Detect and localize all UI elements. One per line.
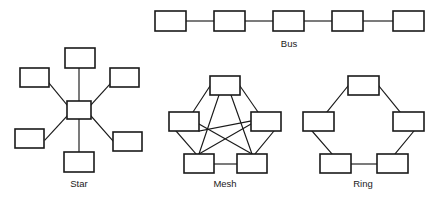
ring-node-right[interactable]: [393, 112, 424, 131]
ring-node-bottom-left[interactable]: [320, 154, 351, 173]
star-node-lower-left[interactable]: [15, 129, 44, 148]
star-link-4: [45, 116, 67, 140]
topology-canvas: BusStarMeshRing: [0, 0, 434, 200]
ring-node-top[interactable]: [348, 76, 379, 95]
topology-label-mesh: Mesh: [213, 178, 236, 189]
topology-label-star: Star: [70, 178, 87, 189]
network-topology-figure: BusStarMeshRing: [0, 0, 434, 200]
star-node-bottom[interactable]: [64, 152, 94, 172]
ring-link-4: [395, 131, 414, 154]
ring-link-3: [312, 131, 332, 154]
star-node-lower-right[interactable]: [113, 132, 142, 151]
bus-node-3[interactable]: [273, 11, 304, 31]
star-nodes: [15, 48, 142, 172]
mesh-node-bottom-left[interactable]: [184, 154, 214, 173]
ring-link-2: [379, 86, 400, 112]
bus-node-1[interactable]: [155, 11, 186, 31]
bus-node-5[interactable]: [393, 11, 424, 31]
ring-nodes: [303, 76, 424, 173]
topology-group-mesh: Mesh: [169, 76, 281, 189]
star-node-upper-right[interactable]: [110, 68, 139, 87]
mesh-node-left[interactable]: [169, 112, 199, 131]
star-link-2: [49, 83, 67, 105]
mesh-link-9: [255, 131, 274, 154]
mesh-node-top[interactable]: [210, 76, 240, 95]
star-link-3: [91, 84, 110, 105]
mesh-nodes: [169, 76, 281, 173]
topology-group-ring: Ring: [303, 76, 424, 189]
mesh-link-3: [199, 95, 219, 154]
ring-node-left[interactable]: [303, 112, 334, 131]
star-link-5: [91, 116, 113, 141]
star-node-upper-left[interactable]: [20, 68, 49, 87]
ring-node-bottom-right[interactable]: [377, 154, 408, 173]
bus-node-4[interactable]: [332, 11, 363, 31]
mesh-node-bottom-right[interactable]: [237, 154, 267, 173]
topology-group-bus: Bus: [155, 11, 424, 49]
mesh-node-right[interactable]: [251, 112, 281, 131]
star-node-top[interactable]: [65, 48, 95, 68]
mesh-link-8: [176, 131, 196, 154]
topology-label-bus: Bus: [281, 38, 298, 49]
bus-node-2[interactable]: [214, 11, 245, 31]
topology-group-star: Star: [15, 48, 142, 189]
star-hub[interactable]: [67, 101, 91, 119]
mesh-link-1: [193, 86, 210, 112]
ring-link-1: [327, 86, 348, 112]
mesh-link-2: [240, 86, 258, 112]
topology-label-ring: Ring: [353, 178, 373, 189]
